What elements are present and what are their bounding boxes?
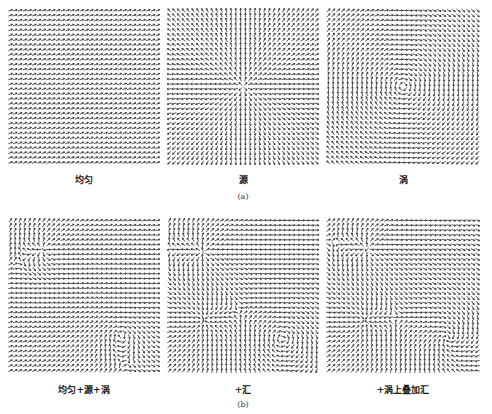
vector-field-uniform bbox=[8, 8, 160, 165]
vector-field-arrows bbox=[326, 8, 480, 165]
vector-field-vortex bbox=[326, 8, 480, 165]
label-plus-sink: +汇 bbox=[235, 383, 252, 396]
label-vortex-plus-sink: +涡上叠加汇 bbox=[377, 383, 430, 396]
vector-field-arrows bbox=[167, 218, 319, 373]
vector-field-arrows bbox=[8, 8, 160, 165]
subfigure-label-b: (b) bbox=[237, 400, 248, 409]
vector-field-uniform-source-vortex bbox=[8, 218, 160, 373]
vector-field-arrows bbox=[167, 8, 319, 165]
vector-field-arrows bbox=[326, 218, 480, 373]
vector-field-vortex-plus-sink bbox=[326, 218, 480, 373]
vector-field-source bbox=[167, 8, 319, 165]
label-vortex: 涡 bbox=[399, 173, 408, 186]
vector-field-arrows bbox=[8, 218, 160, 373]
label-source: 源 bbox=[239, 173, 248, 186]
vector-field-plus-sink bbox=[167, 218, 319, 373]
subfigure-label-a: (a) bbox=[237, 192, 248, 201]
label-uniform-source-vortex: 均匀+源+涡 bbox=[58, 383, 109, 396]
label-uniform: 均匀 bbox=[75, 173, 93, 186]
